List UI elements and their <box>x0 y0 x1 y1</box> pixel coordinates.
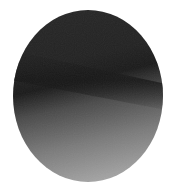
specimen-ellipse <box>0 0 176 188</box>
specimen-image <box>0 0 176 188</box>
image-canvas: Grayscale elliptical specimen photograph… <box>0 0 176 188</box>
grain-texture <box>0 0 176 188</box>
specimen-top-clip <box>0 0 176 188</box>
